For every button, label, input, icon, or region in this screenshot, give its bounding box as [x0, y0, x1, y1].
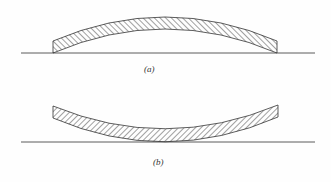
concave-strip: [53, 105, 278, 142]
panel-b: [21, 105, 315, 142]
convex-strip: [53, 17, 277, 53]
diagram-canvas: (a) (b): [0, 0, 331, 182]
diagram-svg: [0, 0, 331, 182]
panel-a: [21, 17, 315, 53]
panel-a-label: (a): [144, 64, 155, 74]
panel-b-label: (b): [153, 157, 164, 167]
